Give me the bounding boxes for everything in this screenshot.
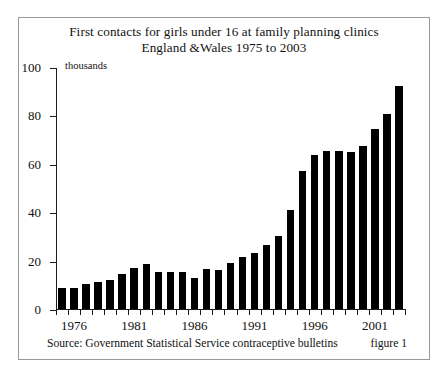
bar-1976 (70, 288, 77, 309)
x-tick (333, 309, 334, 315)
chart-title-line-2: England &Wales 1975 to 2003 (19, 40, 429, 56)
bar-1982 (143, 264, 150, 309)
bar-1997 (323, 151, 330, 310)
x-tick (152, 309, 153, 315)
plot-area: 020406080100 197619811986199119962001 (56, 68, 405, 310)
bar-1992 (263, 245, 270, 309)
x-tick (104, 309, 105, 315)
y-axis-line (56, 68, 57, 310)
bar-1995 (299, 171, 306, 309)
x-tick (381, 309, 382, 315)
y-tick-label-20: 20 (28, 253, 41, 269)
y-tick-100: 100 (50, 68, 57, 69)
bar-1994 (287, 210, 294, 309)
x-tick (224, 309, 225, 315)
bar-1991 (251, 253, 258, 309)
x-tick-label-2001: 2001 (362, 318, 388, 334)
y-tick-label-40: 40 (28, 205, 41, 221)
x-tick (273, 309, 274, 315)
bar-1988 (215, 270, 222, 309)
x-tick (249, 309, 250, 315)
figure-number-label: figure 1 (371, 337, 407, 350)
figure-panel: First contacts for girls under 16 at fam… (18, 17, 430, 360)
y-tick-80: 80 (50, 116, 57, 117)
x-axis-line (56, 309, 405, 310)
y-tick-label-0: 0 (35, 302, 42, 318)
bar-1987 (203, 269, 210, 309)
x-tick (80, 309, 81, 315)
y-tick-label-60: 60 (28, 156, 41, 172)
x-tick (285, 309, 286, 315)
x-tick (92, 309, 93, 315)
bar-1986 (191, 278, 198, 309)
x-tick (297, 309, 298, 315)
bar-1980 (118, 274, 125, 309)
x-tick (261, 309, 262, 315)
y-tick-label-80: 80 (28, 108, 41, 124)
x-tick (237, 309, 238, 315)
bar-2001 (371, 129, 378, 309)
bar-2003 (395, 86, 402, 309)
x-tick (116, 309, 117, 315)
bar-2000 (359, 146, 366, 309)
source-note: Source: Government Statistical Service c… (47, 337, 338, 350)
chart-title: First contacts for girls under 16 at fam… (19, 24, 429, 56)
bar-1977 (82, 284, 89, 309)
bar-1979 (106, 280, 113, 309)
x-tick (405, 309, 406, 315)
x-tick (321, 309, 322, 315)
x-tick (369, 309, 370, 315)
bar-1989 (227, 263, 234, 309)
x-tick (164, 309, 165, 315)
x-tick (212, 309, 213, 315)
x-tick (345, 309, 346, 315)
x-tick-label-1991: 1991 (242, 318, 268, 334)
x-tick (128, 309, 129, 315)
x-tick (188, 309, 189, 315)
y-tick-label-100: 100 (22, 60, 42, 76)
x-tick (68, 309, 69, 315)
bar-1990 (239, 257, 246, 309)
y-tick-40: 40 (50, 213, 57, 214)
x-tick (140, 309, 141, 315)
x-tick (309, 309, 310, 315)
x-tick (56, 309, 57, 315)
x-tick (176, 309, 177, 315)
x-tick-label-1996: 1996 (302, 318, 328, 334)
bar-1985 (179, 272, 186, 310)
y-tick-20: 20 (50, 262, 57, 263)
bar-2002 (383, 114, 390, 309)
x-tick-label-1976: 1976 (61, 318, 87, 334)
bar-1975 (58, 288, 65, 309)
x-tick (357, 309, 358, 315)
bar-1981 (130, 268, 137, 309)
bar-1999 (347, 152, 354, 309)
bar-1993 (275, 236, 282, 309)
bar-1983 (155, 272, 162, 310)
chart-title-line-1: First contacts for girls under 16 at fam… (19, 24, 429, 40)
bar-1996 (311, 155, 318, 309)
x-tick-label-1986: 1986 (181, 318, 207, 334)
bar-1998 (335, 151, 342, 310)
bar-1984 (167, 272, 174, 310)
x-tick (393, 309, 394, 315)
x-tick-label-1981: 1981 (121, 318, 147, 334)
x-tick (200, 309, 201, 315)
bar-1978 (94, 282, 101, 309)
y-tick-60: 60 (50, 165, 57, 166)
